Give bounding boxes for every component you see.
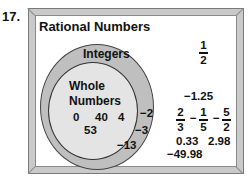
integer-neg-3: −3 [135,124,148,136]
integer-neg-13: −13 [117,139,137,151]
integer-neg-2: −2 [140,107,153,119]
neg-sign: − [213,112,220,124]
neg-sign: − [190,112,197,124]
fraction-one-half: 1 2 [199,40,208,66]
decimal-0-33: 0.33 [176,135,198,147]
fraction-neg-one-fifth: 1 5 [199,107,208,133]
fraction-two-thirds: 2 3 [176,107,185,133]
problem-number: 17. [2,9,20,24]
numerator: 1 [200,40,206,51]
numerator: 2 [177,107,183,118]
whole-number-4: 4 [118,111,124,123]
denominator: 2 [223,122,229,133]
decimal-neg-49-98: −49.98 [167,148,203,160]
rational-numbers-title: Rational Numbers [39,19,150,34]
numerator: 1 [200,107,206,118]
decimal-2-98: 2.98 [208,135,230,147]
fraction-neg-five-halves: 5 2 [222,107,231,133]
whole-numbers-label-line2: Numbers [69,94,121,108]
whole-number-53: 53 [84,124,97,136]
whole-number-0: 0 [73,111,79,123]
whole-numbers-label-line1: Whole [69,79,105,93]
integers-label: Integers [83,47,130,61]
decimal-neg-1-25: −1.25 [184,90,213,102]
denominator: 3 [177,122,183,133]
numerator: 5 [223,107,229,118]
denominator: 2 [200,55,206,66]
whole-number-40: 40 [95,111,108,123]
denominator: 5 [200,122,206,133]
